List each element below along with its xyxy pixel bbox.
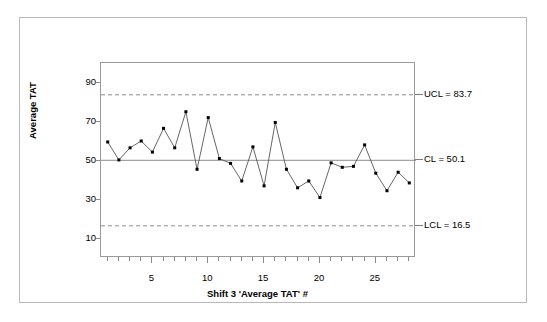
- data-point: [173, 146, 176, 149]
- y-tick-label: 10: [70, 233, 96, 243]
- y-tick-90: 90: [66, 77, 96, 87]
- data-point: [341, 166, 344, 169]
- data-point: [196, 168, 199, 171]
- x-tick-label-15: 15: [248, 272, 278, 283]
- data-point: [296, 186, 299, 189]
- data-point: [218, 157, 221, 160]
- y-tick-30: 30: [66, 194, 96, 204]
- data-point: [307, 179, 310, 182]
- x-tick-label-10: 10: [192, 272, 222, 283]
- data-point: [162, 127, 165, 130]
- x-axis-title: Shift 3 'Average TAT' #: [100, 288, 415, 299]
- data-point: [363, 143, 366, 146]
- limit-connector: [415, 94, 423, 95]
- plot-area: [100, 62, 415, 257]
- series-line-average-tat: [108, 112, 410, 198]
- data-point: [229, 162, 232, 165]
- y-axis-title: Average TAT: [27, 51, 38, 171]
- cl-annotation: CL = 50.1: [424, 153, 465, 164]
- control-limit-lines: [101, 95, 416, 226]
- data-point: [251, 145, 254, 148]
- data-point: [374, 172, 377, 175]
- data-point: [240, 179, 243, 182]
- data-point: [263, 184, 266, 187]
- data-point: [274, 121, 277, 124]
- y-tick-50: 50: [66, 155, 96, 165]
- x-tick-label-25: 25: [360, 272, 390, 283]
- x-tick-label-5: 5: [136, 272, 166, 283]
- data-point: [397, 171, 400, 174]
- y-tick-label: 90: [70, 77, 96, 87]
- data-point: [352, 165, 355, 168]
- data-point: [184, 110, 187, 113]
- data-point: [140, 140, 143, 143]
- data-point: [106, 140, 109, 143]
- series-markers-average-tat: [106, 110, 411, 199]
- data-point: [285, 168, 288, 171]
- data-point: [408, 181, 411, 184]
- limit-connector: [415, 225, 423, 226]
- data-point: [385, 189, 388, 192]
- control-chart-figure: Average TAT 1030507090 510152025 UCL = 8…: [0, 0, 547, 322]
- data-point: [318, 196, 321, 199]
- lcl-annotation: LCL = 16.5: [424, 219, 470, 230]
- limit-connector: [415, 159, 423, 160]
- data-point: [117, 158, 120, 161]
- data-point: [207, 116, 210, 119]
- y-tick-label: 70: [70, 116, 96, 126]
- y-tick-label: 50: [70, 155, 96, 165]
- y-tick-10: 10: [66, 233, 96, 243]
- x-tick-label-20: 20: [304, 272, 334, 283]
- data-point: [330, 161, 333, 164]
- y-tick-70: 70: [66, 116, 96, 126]
- data-point: [151, 151, 154, 154]
- series-plot: [101, 63, 416, 258]
- y-tick-label: 30: [70, 194, 96, 204]
- data-point: [129, 146, 132, 149]
- ucl-annotation: UCL = 83.7: [424, 88, 472, 99]
